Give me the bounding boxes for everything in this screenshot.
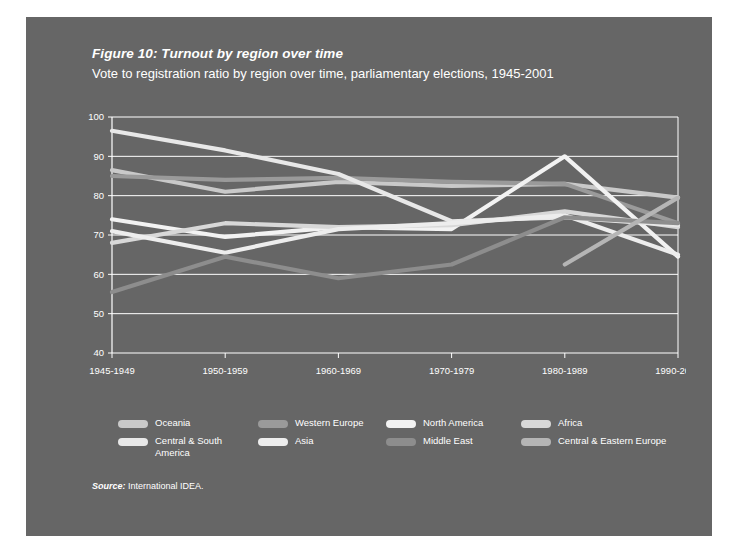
legend-item-label: Middle East [423, 435, 473, 447]
legend-item-label: Oceania [155, 417, 190, 429]
legend-item-western-europe[interactable]: Western Europe [258, 417, 386, 429]
source-note: Source: International IDEA. [92, 481, 204, 491]
legend-swatch-icon [118, 438, 148, 446]
x-tick-label: 1990-2001 [655, 365, 686, 376]
y-tick-label: 100 [88, 111, 104, 122]
figure-page: Figure 10: Turnout by region over time V… [0, 0, 737, 553]
legend-item-africa[interactable]: Africa [521, 417, 681, 429]
figure-panel: Figure 10: Turnout by region over time V… [26, 17, 712, 536]
gridlines [112, 117, 678, 353]
y-tick-label: 50 [93, 308, 104, 319]
y-tick-label: 80 [93, 190, 104, 201]
line-chart: 405060708090100 1945-19491950-19591960-1… [66, 109, 686, 389]
legend-item-north-america[interactable]: North America [386, 417, 521, 429]
legend-item-asia[interactable]: Asia [258, 435, 386, 459]
chart-svg: 405060708090100 1945-19491950-19591960-1… [66, 109, 686, 389]
figure-subtitle: Vote to registration ratio by region ove… [92, 65, 682, 82]
legend-swatch-icon [386, 438, 416, 446]
series-line-north-america [112, 156, 678, 256]
x-tick-label: 1980-1989 [542, 365, 587, 376]
x-tick-label: 1945-1949 [89, 365, 134, 376]
legend-row: OceaniaWestern EuropeNorth AmericaAfrica [118, 417, 688, 429]
legend-swatch-icon [521, 438, 551, 446]
y-tick-label: 60 [93, 269, 104, 280]
legend-item-label: Central & South America [155, 435, 258, 459]
legend-item-middle-east[interactable]: Middle East [386, 435, 521, 459]
series-lines [112, 131, 678, 292]
y-tick-label: 90 [93, 151, 104, 162]
x-axis-ticks: 1945-19491950-19591960-19691970-19791980… [89, 353, 686, 376]
legend-item-oceania[interactable]: Oceania [118, 417, 258, 429]
y-tick-label: 70 [93, 229, 104, 240]
source-value: International IDEA. [126, 481, 204, 491]
legend-row: Central & South AmericaAsiaMiddle EastCe… [118, 435, 688, 459]
legend-item-central-eastern-europe[interactable]: Central & Eastern Europe [521, 435, 681, 459]
figure-title: Figure 10: Turnout by region over time [92, 45, 682, 62]
legend-item-label: North America [423, 417, 483, 429]
x-tick-label: 1960-1969 [316, 365, 361, 376]
legend-swatch-icon [521, 420, 551, 428]
legend-swatch-icon [258, 420, 288, 428]
legend-swatch-icon [118, 420, 148, 428]
x-tick-label: 1950-1959 [202, 365, 247, 376]
legend-item-label: Western Europe [295, 417, 363, 429]
legend-item-label: Africa [558, 417, 582, 429]
legend-item-label: Central & Eastern Europe [558, 435, 666, 447]
y-axis-ticks: 405060708090100 [88, 111, 112, 358]
chart-legend: OceaniaWestern EuropeNorth AmericaAfrica… [118, 417, 688, 465]
legend-item-label: Asia [295, 435, 313, 447]
legend-swatch-icon [386, 420, 416, 428]
title-block: Figure 10: Turnout by region over time V… [92, 45, 682, 82]
y-tick-label: 40 [93, 347, 104, 358]
legend-item-central-south-america[interactable]: Central & South America [118, 435, 258, 459]
source-label: Source: [92, 481, 126, 491]
x-tick-label: 1970-1979 [429, 365, 474, 376]
legend-swatch-icon [258, 438, 288, 446]
